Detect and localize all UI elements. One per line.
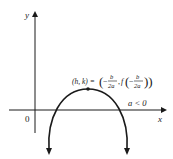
svg-text:)): )): [144, 74, 153, 89]
left-arrow-icon: [46, 148, 52, 155]
x-axis-label: x: [157, 114, 162, 124]
origin-label: 0: [25, 114, 30, 124]
parabola-curve: [49, 89, 127, 150]
svg-text:2a: 2a: [134, 82, 141, 89]
vertex-point: [86, 87, 90, 91]
parabola-diagram: y x 0 a < 0 (h, k) = ( − b 2a , f ( − b …: [0, 0, 173, 159]
vertex-label: (h, k) = ( − b 2a , f ( − b 2a )): [72, 73, 153, 89]
y-axis-label: y: [24, 10, 29, 20]
svg-text:b: b: [136, 73, 140, 80]
svg-text:2a: 2a: [108, 82, 115, 89]
condition-label: a < 0: [128, 98, 147, 108]
svg-text:(h, k) =: (h, k) =: [72, 77, 95, 86]
svg-text:b: b: [110, 73, 114, 80]
right-arrow-icon: [124, 148, 130, 155]
svg-text:,: ,: [118, 77, 120, 86]
